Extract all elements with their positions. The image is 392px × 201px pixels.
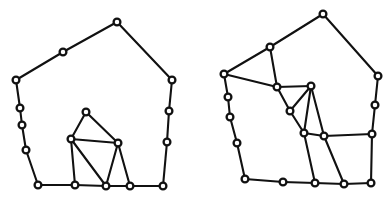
graph-vertex-outer-upper-right bbox=[375, 73, 382, 80]
graph-vertex-outer-upper-left bbox=[221, 71, 228, 78]
graph-vertex-outer-right-1 bbox=[166, 108, 173, 115]
graph-vertex-inner-upper-left bbox=[274, 84, 281, 91]
canvas-background bbox=[0, 0, 392, 201]
graph-vertex-outer-bottom-left bbox=[242, 176, 249, 183]
graph-vertex-outer-apex bbox=[320, 11, 327, 18]
graph-vertex-outer-left-4 bbox=[234, 140, 241, 147]
graph-vertex-outer-upper-left bbox=[13, 77, 20, 84]
graph-vertex-outer-upper-mid-left bbox=[60, 49, 67, 56]
graph-vertex-outer-left-2 bbox=[17, 105, 24, 112]
graph-vertex-outer-right-2 bbox=[369, 131, 376, 138]
graph-vertex-inner-peak bbox=[83, 109, 90, 116]
graph-edge bbox=[75, 185, 106, 186]
polygon-mesh-diagram bbox=[0, 0, 392, 201]
graph-vertex-outer-bottom-2 bbox=[72, 182, 79, 189]
graph-edge bbox=[371, 134, 372, 183]
graph-vertex-inner-right bbox=[115, 140, 122, 147]
graph-vertex-inner-lower-left bbox=[301, 130, 308, 137]
graph-vertex-inner-lower-right bbox=[321, 133, 328, 140]
graph-vertex-outer-left-3 bbox=[227, 114, 234, 121]
graph-vertex-outer-bottom-right bbox=[368, 180, 375, 187]
graph-vertex-outer-upper-right bbox=[169, 77, 176, 84]
graph-vertex-inner-upper-right bbox=[308, 83, 315, 90]
graph-vertex-outer-left-2 bbox=[225, 94, 232, 101]
graph-vertex-inner-mid-left bbox=[287, 108, 294, 115]
graph-vertex-outer-left-3 bbox=[19, 122, 26, 129]
graph-vertex-outer-bottom-2 bbox=[280, 179, 287, 186]
graph-vertex-outer-right-1 bbox=[372, 102, 379, 109]
graph-vertex-outer-bottom-left bbox=[35, 182, 42, 189]
graph-vertex-outer-bottom-right bbox=[160, 183, 167, 190]
graph-vertex-inner-left bbox=[68, 136, 75, 143]
graph-vertex-outer-bottom-3 bbox=[103, 183, 110, 190]
graph-vertex-outer-right-2 bbox=[164, 139, 171, 146]
graph-vertex-outer-bottom-4 bbox=[127, 183, 134, 190]
graph-vertex-outer-bottom-3 bbox=[312, 180, 319, 187]
graph-edge bbox=[277, 86, 311, 87]
graph-vertex-outer-bottom-4 bbox=[341, 181, 348, 188]
graph-vertex-outer-left-4 bbox=[23, 147, 30, 154]
graph-edge bbox=[283, 182, 315, 183]
graph-vertex-outer-upper-mid-left bbox=[267, 44, 274, 51]
graph-vertex-outer-apex bbox=[114, 19, 121, 26]
